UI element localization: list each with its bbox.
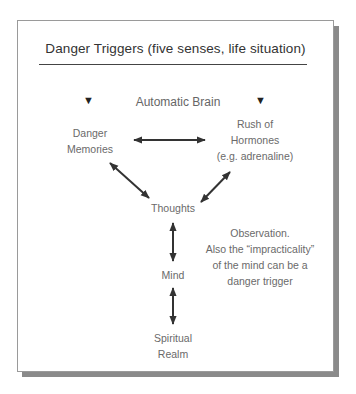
double-arrow-icon (201, 172, 230, 202)
double-arrow-icon (110, 163, 149, 198)
connection-arrows (0, 0, 356, 394)
